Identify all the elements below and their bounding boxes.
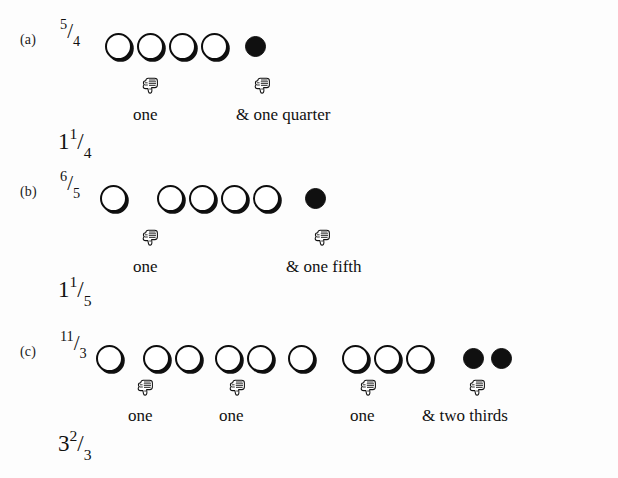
thumbs-down-pointer-icon xyxy=(140,76,160,101)
mixed-number-value: 11/4 xyxy=(58,130,92,153)
mixed-number: 11/5 xyxy=(58,278,92,301)
improper-fraction-value-numerator: 6 xyxy=(60,168,67,184)
fraction-row-c: (c)11/332/3oneoneone& two thirds xyxy=(0,320,618,478)
hollow-circle-icon xyxy=(247,345,274,372)
mixed-number-value-whole: 1 xyxy=(58,277,70,302)
group-caption: & one quarter xyxy=(236,106,330,123)
improper-fraction-value-numerator: 11 xyxy=(60,328,74,344)
hollow-circle-icon xyxy=(96,345,123,372)
hollow-circle-icon xyxy=(105,33,132,60)
improper-fraction-value-slash: / xyxy=(74,331,80,355)
hollow-circle-icon xyxy=(137,33,164,60)
hollow-circle-icon xyxy=(100,185,127,212)
filled-circle-icon xyxy=(305,188,326,209)
improper-fraction: 5/4 xyxy=(60,21,80,42)
mixed-number-value-denominator: 3 xyxy=(84,446,92,463)
group-caption: one xyxy=(350,407,375,424)
mixed-number-value-numerator: 2 xyxy=(70,427,78,444)
thumbs-down-pointer-icon xyxy=(467,378,487,403)
mixed-number: 32/3 xyxy=(58,432,92,455)
row-label: (b) xyxy=(20,184,37,200)
worksheet-figure: (a)5/411/4one& one quarter(b)6/511/5one&… xyxy=(0,0,618,478)
mixed-number-value-whole: 3 xyxy=(58,431,70,456)
improper-fraction: 6/5 xyxy=(60,173,80,194)
improper-fraction-value-numerator: 5 xyxy=(60,16,67,32)
thumbs-down-pointer-icon xyxy=(140,228,160,253)
hollow-circle-icon xyxy=(201,33,228,60)
hollow-circle-icon xyxy=(175,345,202,372)
mixed-number-value-slash: / xyxy=(77,431,83,456)
improper-fraction-value-denominator: 3 xyxy=(80,345,87,361)
mixed-number-value-numerator: 1 xyxy=(70,125,78,142)
mixed-number-value-numerator: 1 xyxy=(70,273,78,290)
group-caption: & two thirds xyxy=(422,407,508,424)
hollow-circle-icon xyxy=(374,345,401,372)
fraction-row-b: (b)6/511/5one& one fifth xyxy=(0,160,618,312)
mixed-number-value-slash: / xyxy=(77,129,83,154)
group-caption: one xyxy=(219,407,244,424)
mixed-number-value-slash: / xyxy=(77,277,83,302)
fraction-row-a: (a)5/411/4one& one quarter xyxy=(0,8,618,158)
thumbs-down-pointer-icon xyxy=(252,76,272,101)
filled-circle-icon xyxy=(491,348,512,369)
improper-fraction-value: 5/4 xyxy=(60,21,80,42)
group-caption: one xyxy=(133,106,158,123)
improper-fraction-value-denominator: 5 xyxy=(73,185,80,201)
mixed-number-value: 32/3 xyxy=(58,432,92,455)
improper-fraction-value: 6/5 xyxy=(60,173,80,194)
group-caption: & one fifth xyxy=(286,258,362,275)
filled-circle-icon xyxy=(245,36,266,57)
thumbs-down-pointer-icon xyxy=(358,378,378,403)
mixed-number: 11/4 xyxy=(58,130,92,153)
thumbs-down-pointer-icon xyxy=(227,378,247,403)
hollow-circle-icon xyxy=(288,345,315,372)
mixed-number-value: 11/5 xyxy=(58,278,92,301)
row-label: (c) xyxy=(20,344,36,360)
row-label: (a) xyxy=(20,32,36,48)
hollow-circle-icon xyxy=(253,185,280,212)
mixed-number-value-denominator: 4 xyxy=(84,144,92,161)
improper-fraction-value-denominator: 4 xyxy=(73,33,80,49)
hollow-circle-icon xyxy=(157,185,184,212)
improper-fraction: 11/3 xyxy=(60,333,87,354)
hollow-circle-icon xyxy=(215,345,242,372)
hollow-circle-icon xyxy=(342,345,369,372)
mixed-number-value-whole: 1 xyxy=(58,129,70,154)
group-caption: one xyxy=(128,407,153,424)
filled-circle-icon xyxy=(463,348,484,369)
improper-fraction-value: 11/3 xyxy=(60,333,87,354)
hollow-circle-icon xyxy=(221,185,248,212)
thumbs-down-pointer-icon xyxy=(312,228,332,253)
hollow-circle-icon xyxy=(406,345,433,372)
group-caption: one xyxy=(133,258,158,275)
hollow-circle-icon xyxy=(169,33,196,60)
hollow-circle-icon xyxy=(143,345,170,372)
thumbs-down-pointer-icon xyxy=(135,378,155,403)
mixed-number-value-denominator: 5 xyxy=(84,292,92,309)
hollow-circle-icon xyxy=(189,185,216,212)
